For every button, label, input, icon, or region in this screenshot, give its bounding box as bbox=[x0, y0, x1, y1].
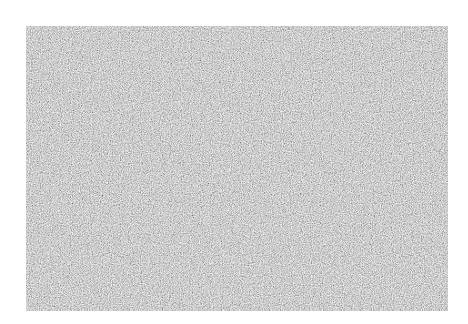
image-canvas bbox=[0, 0, 468, 324]
noise-texture bbox=[26, 26, 448, 311]
gray-noise-panel bbox=[26, 26, 448, 311]
